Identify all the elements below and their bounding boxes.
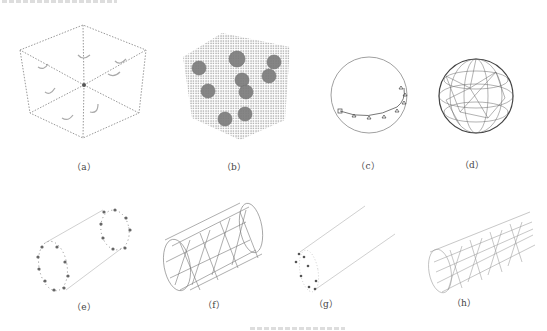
figure-caption-cropped [250, 327, 345, 330]
panel-label-a: （a） [64, 160, 104, 173]
panel-label-d: （d） [452, 158, 492, 171]
panel-label-e: （e） [64, 300, 104, 313]
panel-label-c: （c） [348, 159, 388, 172]
panel-label-f: （f） [194, 298, 234, 311]
panel-label-h: （h） [444, 296, 484, 309]
panel-label-b: （b） [214, 160, 254, 173]
panel-label-g: （g） [306, 297, 346, 310]
